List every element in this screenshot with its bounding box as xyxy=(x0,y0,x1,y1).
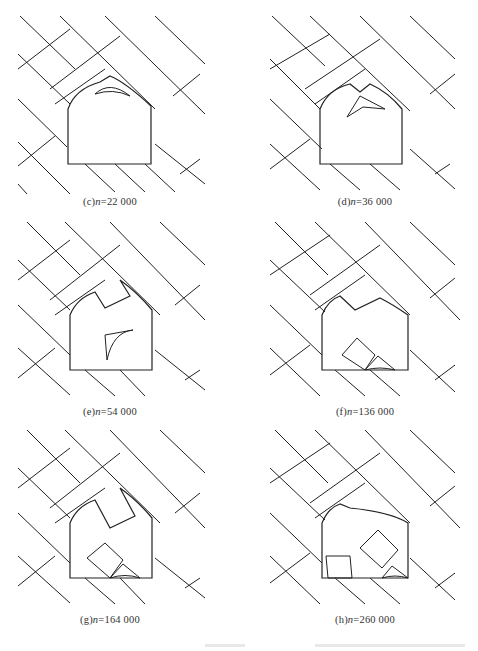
caption-value: 22 000 xyxy=(107,196,137,207)
illegible-caption-text xyxy=(315,644,465,647)
caption-value: 164 000 xyxy=(104,614,140,625)
caption-label: (h) xyxy=(335,614,348,625)
tunnel-diagram-h xyxy=(270,428,460,608)
tunnel-diagram-g xyxy=(15,428,205,608)
panel-f xyxy=(270,220,460,400)
tunnel-diagram-e xyxy=(15,220,205,400)
tunnel-diagram-d xyxy=(270,14,460,194)
panel-e xyxy=(15,220,205,400)
panel-caption-h: (h)n=260 000 xyxy=(270,614,460,625)
panel-caption-d: (d)n=36 000 xyxy=(270,196,460,207)
caption-value: 260 000 xyxy=(359,614,395,625)
panel-caption-g: (g)n=164 000 xyxy=(15,614,205,625)
caption-label: (d) xyxy=(338,196,351,207)
panel-caption-f: (f)n=136 000 xyxy=(270,406,460,417)
panel-d xyxy=(270,14,460,194)
panel-caption-e: (e)n=54 000 xyxy=(15,406,205,417)
tunnel-diagram-c xyxy=(15,14,205,194)
panel-caption-c: (c)n=22 000 xyxy=(15,196,205,207)
caption-value: 54 000 xyxy=(107,406,137,417)
tunnel-diagram-f xyxy=(270,220,460,400)
caption-label: (g) xyxy=(80,614,93,625)
panel-c xyxy=(15,14,205,194)
figure-caption-clipped xyxy=(0,640,478,651)
panel-g xyxy=(15,428,205,608)
panel-h xyxy=(270,428,460,608)
caption-value: 136 000 xyxy=(359,406,395,417)
caption-label: (f) xyxy=(336,406,347,417)
caption-value: 36 000 xyxy=(362,196,392,207)
caption-label: (c) xyxy=(83,196,95,207)
caption-label: (e) xyxy=(83,406,95,417)
illegible-caption-text xyxy=(205,644,245,647)
